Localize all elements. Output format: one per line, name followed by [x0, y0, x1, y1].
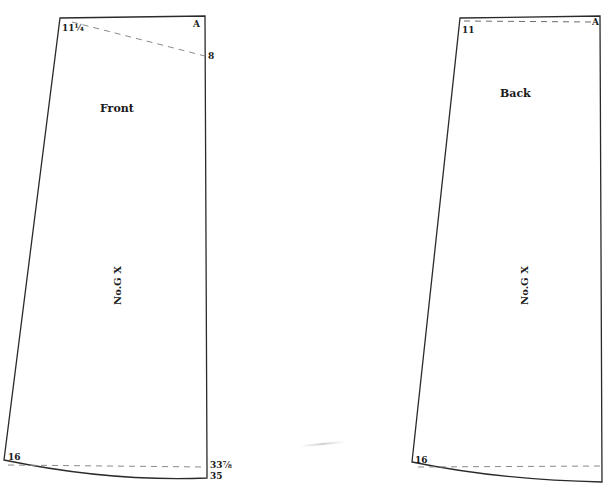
front-title: Front: [100, 103, 134, 114]
back-label-bottom-left: 16: [415, 456, 428, 465]
back-label-top-left: 11: [462, 26, 475, 35]
front-label-bottom-right-upper: 33⅞: [210, 461, 232, 470]
pattern-canvas: [0, 0, 603, 484]
front-label-bottom-left: 16: [8, 453, 21, 462]
front-label-top-left: 11¼: [62, 24, 84, 33]
front-piece: [4, 16, 207, 479]
back-piece: [412, 16, 603, 482]
front-outline: [4, 16, 207, 479]
back-hem-dash: [418, 466, 603, 467]
back-waist-dash: [464, 21, 594, 22]
back-pattern-number: No.G X: [520, 266, 530, 305]
front-label-top-right: A: [193, 20, 200, 29]
back-outline: [412, 16, 602, 482]
back-title: Back: [500, 88, 531, 99]
front-waist-dash: [72, 22, 205, 56]
front-pattern-number: No.G X: [113, 266, 123, 305]
back-label-top-right: A: [592, 18, 599, 27]
front-label-dart: 8: [208, 52, 214, 61]
front-label-bottom-right-lower: 35: [210, 472, 223, 481]
